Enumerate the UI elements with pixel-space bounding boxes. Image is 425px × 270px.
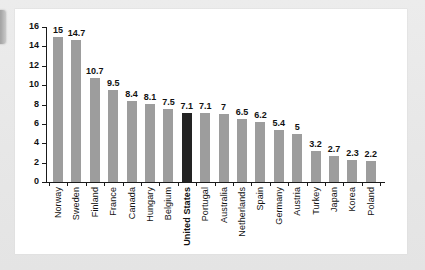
bar-chart-plot: 1614121086420 1514.710.79.58.48.17.57.17… [15, 9, 407, 254]
x-axis-category-label: Finland [90, 187, 100, 217]
bar-value-label: 7.1 [199, 101, 212, 111]
x-axis-tick [196, 183, 197, 186]
x-axis-category-label: Sweden [71, 187, 81, 220]
x-axis-category-label: Spain [255, 187, 265, 211]
bar-value-label: 7.1 [181, 101, 194, 111]
bar[interactable]: 2.3 [347, 160, 357, 182]
y-axis-tick-label: 6 [34, 118, 39, 129]
bar-column[interactable]: 2.2 [362, 9, 380, 182]
y-axis-tick-label: 10 [29, 79, 39, 90]
bar-column[interactable]: 14.7 [67, 9, 85, 182]
bar-column[interactable]: 6.5 [233, 9, 251, 182]
bar[interactable]: 7.1 [200, 113, 210, 182]
bar-column[interactable]: 2.3 [343, 9, 361, 182]
x-axis-category-label: Austria [292, 187, 302, 216]
x-axis-category-label: Australia [219, 187, 229, 223]
bar[interactable]: 8.1 [145, 104, 155, 182]
bar-value-label: 3.2 [309, 139, 322, 149]
bar-column[interactable]: 15 [49, 9, 67, 182]
bar[interactable]: 14.7 [71, 40, 81, 182]
bar-value-label: 7 [221, 102, 226, 112]
y-axis-tick-label: 4 [34, 137, 39, 148]
bar-value-label: 5 [295, 122, 300, 132]
bar-column[interactable]: 10.7 [86, 9, 104, 182]
y-axis-tick: 2 [42, 163, 46, 164]
x-axis-category-label: Portugal [200, 187, 210, 221]
x-axis-tick [178, 183, 179, 186]
x-axis-tick [215, 183, 216, 186]
bar[interactable]: 2.7 [329, 156, 339, 182]
y-axis-tick: 8 [42, 105, 46, 106]
bar[interactable]: 5.4 [274, 130, 284, 182]
bar-value-label: 6.5 [236, 107, 249, 117]
bar[interactable]: 3.2 [311, 151, 321, 182]
bar[interactable]: 9.5 [108, 90, 118, 182]
x-axis-tick [141, 183, 142, 186]
bar[interactable]: 7 [219, 114, 229, 182]
x-axis-category-label: Belgium [163, 187, 173, 220]
y-axis-line [46, 27, 47, 183]
bar-value-label: 5.4 [273, 118, 286, 128]
x-axis-tick [159, 183, 160, 186]
x-axis-category-label: United States [182, 187, 192, 246]
bar-value-label: 9.5 [107, 78, 120, 88]
x-axis-tick [49, 183, 50, 186]
y-axis-tick-label: 12 [29, 60, 39, 71]
x-axis-tick [104, 183, 105, 186]
x-axis-category-label: Hungary [145, 187, 155, 222]
bar-value-label: 8.4 [125, 89, 138, 99]
x-axis-tick [343, 183, 344, 186]
bar-column[interactable]: 2.7 [325, 9, 343, 182]
x-axis-category-label: Poland [366, 187, 376, 216]
bar-column[interactable]: 8.1 [141, 9, 159, 182]
bar-value-label: 8.1 [144, 92, 157, 102]
bar-column[interactable]: 5 [288, 9, 306, 182]
bar[interactable]: 10.7 [90, 78, 100, 182]
bar-highlighted[interactable]: 7.1 [182, 113, 192, 182]
y-axis-tick-label: 8 [34, 99, 39, 110]
bar-value-label: 10.7 [86, 66, 104, 76]
x-axis-tick [86, 183, 87, 186]
bar-column[interactable]: 7.5 [159, 9, 177, 182]
x-axis-tick [307, 183, 308, 186]
bar-value-label: 2.2 [365, 149, 378, 159]
bar[interactable]: 8.4 [127, 101, 137, 182]
x-axis-tick [67, 183, 68, 186]
x-axis-tick [233, 183, 234, 186]
y-axis-tick-label: 16 [29, 21, 39, 32]
bar-column[interactable]: 6.2 [251, 9, 269, 182]
x-axis-tick [251, 183, 252, 186]
y-axis-tick: 0 [42, 182, 46, 183]
y-axis-tick: 16 [42, 27, 46, 28]
bar-column[interactable]: 7.1 [178, 9, 196, 182]
bar-column[interactable]: 9.5 [104, 9, 122, 182]
x-axis-tick [362, 183, 363, 186]
bar[interactable]: 6.2 [255, 122, 265, 182]
bar[interactable]: 15 [53, 37, 63, 182]
bar-column[interactable]: 7.1 [196, 9, 214, 182]
bar[interactable]: 5 [292, 134, 302, 182]
x-axis-category-label: Germany [274, 187, 284, 225]
bar-value-label: 15 [53, 25, 63, 35]
bar-column[interactable]: 3.2 [307, 9, 325, 182]
bar[interactable]: 2.2 [366, 161, 376, 182]
y-axis-tick: 12 [42, 66, 46, 67]
bar[interactable]: 6.5 [237, 119, 247, 182]
x-axis-category-label: Norway [53, 187, 63, 218]
x-axis-category-label: Korea [347, 187, 357, 212]
x-axis-tick [288, 183, 289, 186]
edge-tab-decoration [0, 10, 6, 44]
x-axis-category-label: Canada [127, 187, 137, 219]
bar[interactable]: 7.5 [163, 109, 173, 182]
y-axis-tick: 4 [42, 143, 46, 144]
bar-column[interactable]: 8.4 [123, 9, 141, 182]
x-axis-category-label: Netherlands [237, 187, 247, 237]
bar-value-label: 6.2 [254, 110, 267, 120]
x-axis-tick [270, 183, 271, 186]
x-axis-category-label: Turkey [311, 187, 321, 215]
bar-column[interactable]: 5.4 [270, 9, 288, 182]
x-axis-tick [325, 183, 326, 186]
y-axis-tick: 14 [42, 46, 46, 47]
bar-column[interactable]: 7 [215, 9, 233, 182]
y-axis-tick-label: 0 [34, 176, 39, 187]
